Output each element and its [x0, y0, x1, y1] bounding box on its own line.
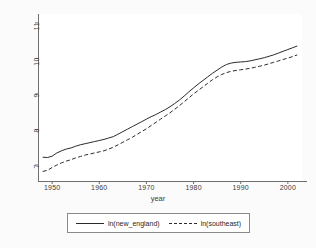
- legend-label-southeast: ln(southeast): [201, 220, 241, 227]
- y-tick-label: 10: [33, 58, 40, 78]
- x-axis-title: year: [0, 194, 316, 203]
- legend-label-new-england: ln(new_england): [108, 220, 160, 227]
- legend-entry-new-england[interactable]: ln(new_england): [76, 220, 160, 227]
- legend-key-dashed-icon: [169, 220, 197, 227]
- y-tick-label: 8: [33, 129, 40, 149]
- x-tick-label: 1990: [233, 184, 249, 191]
- y-tick-label: 9: [33, 93, 40, 113]
- legend-key-solid-icon: [76, 220, 104, 227]
- legend-entry-southeast[interactable]: ln(southeast): [169, 220, 241, 227]
- x-tick-label: 2000: [280, 184, 296, 191]
- x-tick-label: 1980: [185, 184, 201, 191]
- y-axis-labels: 7891011: [10, 0, 36, 248]
- chart-figure: 7891011 195019601970198019902000 year ln…: [0, 0, 316, 248]
- chart-legend: ln(new_england) ln(southeast): [67, 213, 250, 233]
- x-tick-label: 1960: [91, 184, 107, 191]
- y-tick-label: 7: [33, 165, 40, 185]
- x-tick-label: 1970: [138, 184, 154, 191]
- plot-background: [38, 14, 302, 181]
- chart-canvas: [0, 0, 316, 248]
- x-tick-label: 1950: [44, 184, 60, 191]
- y-tick-label: 11: [33, 22, 40, 42]
